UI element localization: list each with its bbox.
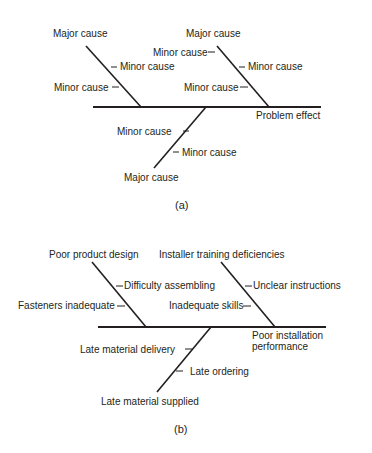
b-minor-fasteners-inadequate: Fasteners inadequate <box>18 300 115 311</box>
b-major-poor-product-design: Poor product design <box>49 249 139 260</box>
a-minor-cause-2c: Minor cause <box>184 82 238 93</box>
a-major-cause-3: Major cause <box>124 172 178 183</box>
b-minor-late-ordering: Late ordering <box>190 366 249 377</box>
b-major-left <box>92 262 146 327</box>
b-minor-inadequate-skills: Inadequate skills <box>169 300 244 311</box>
a-minor-cause-3b: Minor cause <box>182 147 236 158</box>
a-minor-cause-3a: Minor cause <box>117 126 171 137</box>
b-major-late-material-supplied: Late material supplied <box>101 396 199 407</box>
fishbone-lines <box>0 0 372 453</box>
b-major-installer-training: Installer training deficiencies <box>159 249 285 260</box>
b-major-right <box>221 262 275 327</box>
caption-a: (a) <box>175 199 188 211</box>
b-effect-line2: performance <box>252 341 308 352</box>
caption-b: (b) <box>174 423 187 435</box>
a-major-right <box>217 46 269 107</box>
a-major-bottom <box>154 107 206 168</box>
b-minor-unclear-instructions: Unclear instructions <box>253 280 341 291</box>
b-minor-difficulty-assembling: Difficulty assembling <box>124 280 215 291</box>
a-minor-cause-1b: Minor cause <box>54 82 108 93</box>
a-major-cause-1: Major cause <box>53 28 107 39</box>
a-problem-effect: Problem effect <box>256 110 320 121</box>
a-minor-cause-2b: Minor cause <box>248 61 302 72</box>
b-major-bottom <box>157 327 211 392</box>
a-minor-cause-1a: Minor cause <box>120 61 174 72</box>
a-minor-cause-2a: Minor cause <box>153 47 207 58</box>
b-minor-late-material-delivery: Late material delivery <box>80 344 175 355</box>
a-major-left <box>86 46 141 107</box>
b-effect-line1: Poor installation <box>252 330 323 341</box>
a-major-cause-2: Major cause <box>186 28 240 39</box>
